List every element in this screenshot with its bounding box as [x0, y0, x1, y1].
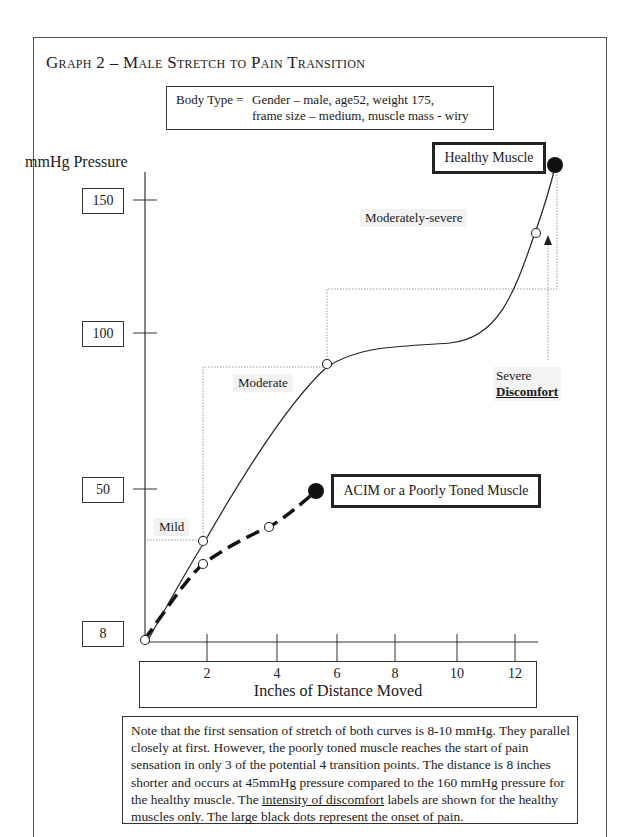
healthy-muscle-curve	[147, 163, 556, 642]
discomfort-label: Discomfort	[496, 384, 558, 399]
x-tick-2: 2	[204, 666, 211, 682]
zone-label-moderately-severe: Moderately-severe	[360, 209, 467, 227]
legend-healthy-muscle: Healthy Muscle	[432, 142, 546, 174]
x-tick-6: 6	[334, 666, 341, 682]
zone-label-mild: Mild	[154, 518, 189, 536]
arrow-up-icon	[544, 235, 552, 245]
x-tick-4: 4	[274, 666, 281, 682]
poor-pain-onset-dot	[308, 483, 324, 499]
zone-guides	[145, 162, 557, 640]
x-tick-10: 10	[450, 666, 464, 682]
x-axis-label: Inches of Distance Moved	[139, 682, 537, 700]
zone-label-severe: Severe Discomfort	[493, 367, 561, 401]
x-tick-12: 12	[508, 666, 522, 682]
intensity-of-discomfort-text: intensity of discomfort	[262, 792, 384, 807]
poor-muscle-curve	[144, 491, 316, 640]
note-box: Note that the first sensation of stretch…	[122, 716, 578, 824]
zone-label-moderate: Moderate	[233, 374, 293, 392]
healthy-pain-onset-dot	[547, 157, 563, 173]
transition-points	[141, 229, 541, 645]
legend-poor-muscle: ACIM or a Poorly Toned Muscle	[331, 474, 541, 508]
x-tick-8: 8	[392, 666, 399, 682]
